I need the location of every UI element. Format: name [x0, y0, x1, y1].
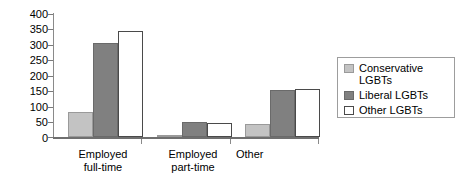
y-tick-label-300: 300: [2, 40, 48, 51]
legend-item-liberal-lgbts: Liberal LGBTs: [344, 89, 449, 101]
bar-conservative-other: [245, 124, 270, 137]
plot-area: 400 350 300 250 200 150 100 50 0: [0, 0, 330, 187]
x-axis-line: [53, 137, 319, 139]
y-tick-label-100: 100: [2, 102, 48, 113]
y-tick-label-50: 50: [2, 117, 48, 128]
legend-label-other: Other LGBTs: [359, 104, 423, 116]
bar-other-employed-full-time: [118, 31, 143, 137]
y-tick-label-250: 250: [2, 55, 48, 66]
bar-conservative-employed-part-time: [157, 135, 182, 137]
legend-swatch-icon-liberal: [344, 91, 354, 100]
legend-item-other-lgbts: Other LGBTs: [344, 104, 449, 116]
bar-liberal-employed-full-time: [93, 43, 118, 137]
bar-liberal-employed-part-time: [182, 122, 207, 137]
y-axis-line: [53, 13, 54, 138]
x-axis-separator-tick-2: [230, 139, 231, 144]
x-axis-label-other: Other: [236, 148, 316, 161]
bar-other-employed-part-time: [207, 123, 232, 137]
x-axis-separator-tick-3: [318, 139, 319, 144]
legend-label-conservative: Conservative LGBTs: [359, 62, 449, 86]
y-tick-label-150: 150: [2, 86, 48, 97]
chart-legend: Conservative LGBTs Liberal LGBTs Other L…: [337, 57, 455, 118]
legend-label-liberal: Liberal LGBTs: [359, 89, 428, 101]
bar-liberal-other: [270, 90, 295, 137]
y-tick-label-400: 400: [2, 9, 48, 20]
bar-other-other: [295, 89, 320, 137]
x-axis-label-employed-part-time: Employed part-time: [147, 148, 239, 174]
y-tick-label-200: 200: [2, 71, 48, 82]
y-tick-label-0: 0: [2, 133, 48, 144]
chart-figure: 400 350 300 250 200 150 100 50 0: [0, 0, 461, 187]
legend-swatch-icon-other: [344, 106, 354, 115]
legend-swatch-icon-conservative: [344, 64, 354, 73]
bar-conservative-employed-full-time: [68, 112, 93, 137]
x-axis-separator-tick-1: [141, 139, 142, 144]
y-axis-tick-labels: 400 350 300 250 200 150 100 50 0: [0, 0, 48, 150]
y-tick-label-350: 350: [2, 24, 48, 35]
x-axis-label-employed-full-time: Employed full-time: [57, 148, 149, 174]
legend-item-conservative-lgbts: Conservative LGBTs: [344, 62, 449, 86]
